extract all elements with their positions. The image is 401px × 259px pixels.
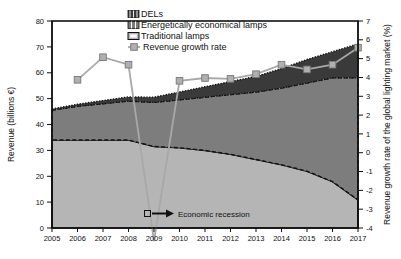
y-tick-label: 50 <box>36 94 44 103</box>
legend-item-energetically-economical-lamps[interactable]: Energetically economical lamps <box>128 20 268 30</box>
y-tick-label: 60 <box>36 68 44 77</box>
legend-item-traditional-lamps[interactable]: Traditional lamps <box>128 31 210 41</box>
x-tick-label: 2010 <box>171 234 188 243</box>
y-tick-label: 0 <box>40 224 44 233</box>
y2-tick-label: 1 <box>366 130 370 139</box>
x-tick-label: 2016 <box>324 234 341 243</box>
y-tick-label: 30 <box>36 146 44 155</box>
annotation-label-economic-recession: Economic recession <box>178 210 250 219</box>
y2-tick-label: 5 <box>366 54 370 63</box>
x-tick-label: 2008 <box>120 234 137 243</box>
y2-tick-label: 6 <box>366 35 370 44</box>
y-axis-left-title: Revenue (billions €) <box>6 87 16 162</box>
legend-swatch-energetically-economical-icon <box>128 22 139 29</box>
legend-label-traditional-lamps: Traditional lamps <box>141 31 210 41</box>
legend-marker-revenue-growth-rate-icon <box>131 44 138 51</box>
chart-canvas: 0 10 20 30 40 50 60 70 80 Revenue (billi… <box>0 0 401 259</box>
y-tick-label: 10 <box>36 198 44 207</box>
y-tick-label: 80 <box>36 17 44 26</box>
legend-item-dels[interactable]: DELs <box>128 9 164 19</box>
y2-tick-label: 2 <box>366 111 370 120</box>
y2-tick-label: -3 <box>366 205 373 214</box>
legend-item-revenue-growth-rate[interactable]: Revenue growth rate <box>128 42 227 52</box>
x-tick-label: 2011 <box>197 234 213 243</box>
legend-label-dels: DELs <box>141 9 164 19</box>
y-tick-label: 20 <box>36 172 44 181</box>
chart-figure: 0 10 20 30 40 50 60 70 80 Revenue (billi… <box>0 0 401 259</box>
y-axis-right-title: Revenue growth rate of the global lighti… <box>382 24 392 225</box>
x-tick-label: 2014 <box>273 234 290 243</box>
y2-tick-label: -1 <box>366 167 373 176</box>
y2-tick-label: -2 <box>366 186 373 195</box>
legend-label-energetically-economical-lamps: Energetically economical lamps <box>141 20 268 30</box>
y-tick-label: 40 <box>36 120 44 129</box>
x-tick-label: 2006 <box>69 234 86 243</box>
x-tick-label: 2007 <box>95 234 112 243</box>
y2-tick-label: 4 <box>366 73 370 82</box>
legend-label-revenue-growth-rate: Revenue growth rate <box>143 42 227 52</box>
y2-tick-label: -4 <box>366 224 373 233</box>
x-tick-label: 2009 <box>146 234 163 243</box>
x-tick-label: 2015 <box>299 234 316 243</box>
x-tick-label: 2013 <box>248 234 265 243</box>
x-tick-label: 2005 <box>44 234 61 243</box>
y-tick-label: 70 <box>36 43 44 52</box>
x-tick-label: 2017 <box>350 234 367 243</box>
y2-tick-label: 7 <box>366 17 370 26</box>
x-tick-label: 2012 <box>222 234 239 243</box>
y2-tick-label: 3 <box>366 92 370 101</box>
y2-tick-label: 0 <box>366 148 370 157</box>
